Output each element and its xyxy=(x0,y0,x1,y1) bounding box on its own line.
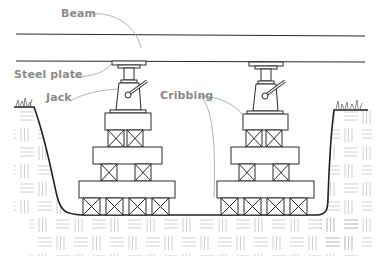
cribbing-right xyxy=(217,114,314,215)
excavation-outline xyxy=(14,107,368,215)
beam-label: Beam xyxy=(61,7,96,20)
grass-left xyxy=(16,98,32,106)
cribbing-left xyxy=(79,113,175,215)
jack-label: Jack xyxy=(46,91,72,104)
cribbing-label: Cribbing xyxy=(160,89,213,102)
steel-plate-label: Steel plate xyxy=(14,68,83,81)
beam xyxy=(16,34,365,62)
cribbing-leader-left xyxy=(199,96,214,198)
jack-leader xyxy=(70,89,118,101)
jack-left xyxy=(110,61,147,113)
soil-bottom xyxy=(30,216,360,256)
soil-left xyxy=(14,106,80,215)
jack-cribbing-diagram xyxy=(0,0,385,269)
beam-leader xyxy=(92,14,141,48)
leader-lines xyxy=(70,14,244,198)
jack-right xyxy=(247,62,285,114)
grass-right xyxy=(336,100,362,109)
